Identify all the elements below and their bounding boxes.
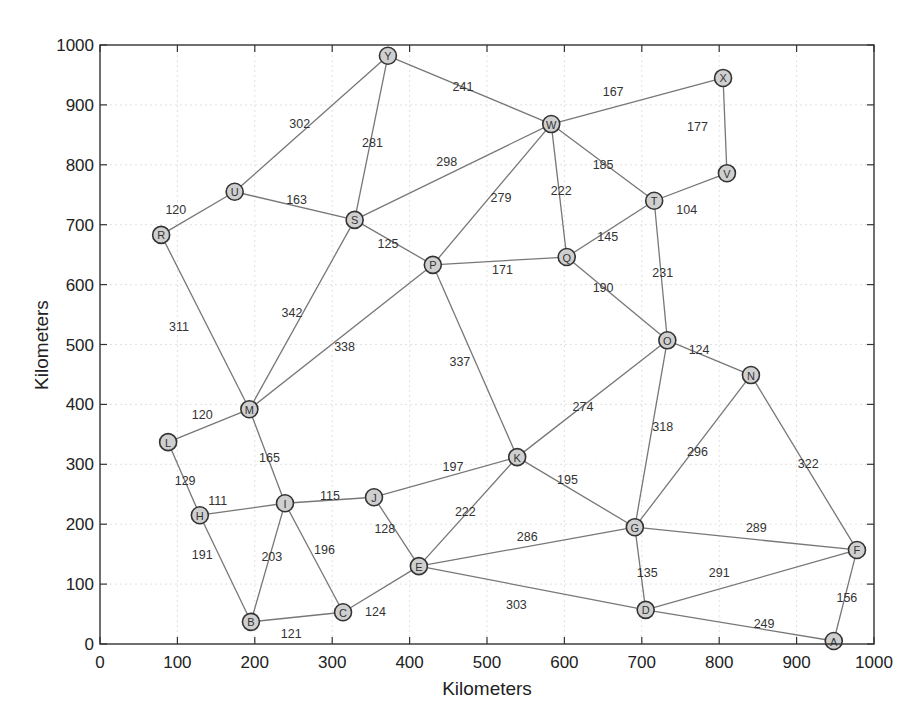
edge-weight-G-D: 135 xyxy=(637,566,658,580)
edge-weight-P-M: 338 xyxy=(334,340,355,354)
node-label: S xyxy=(351,214,358,226)
edge-weight-F-A: 156 xyxy=(836,591,857,605)
network-figure: 3022812411671772982792221851041452311201… xyxy=(0,0,921,728)
x-tick-label: 1000 xyxy=(855,653,893,672)
node-label: L xyxy=(165,437,171,449)
node-P: P xyxy=(424,256,441,273)
edge-X-V xyxy=(723,78,727,173)
edge-weight-M-I: 165 xyxy=(259,451,280,465)
node-B: B xyxy=(242,613,259,630)
x-tick-label: 900 xyxy=(782,653,810,672)
node-R: R xyxy=(153,226,170,243)
node-G: G xyxy=(626,519,643,536)
edge-weight-L-H: 129 xyxy=(175,474,196,488)
edge-P-K xyxy=(433,265,517,457)
node-A: A xyxy=(825,633,842,650)
node-E: E xyxy=(410,558,427,575)
edge-weight-H-I: 111 xyxy=(208,494,227,508)
edge-weight-Y-S: 281 xyxy=(362,136,383,150)
y-tick-label: 900 xyxy=(66,96,94,115)
node-H: H xyxy=(191,507,208,524)
edge-K-G xyxy=(517,457,635,527)
edge-weight-S-M: 342 xyxy=(282,306,303,320)
edge-weight-R-M: 311 xyxy=(169,320,189,334)
edge-weight-T-Q: 145 xyxy=(597,230,618,244)
edge-weight-D-F: 291 xyxy=(709,566,730,580)
node-label: B xyxy=(247,616,254,628)
node-label: G xyxy=(631,522,640,534)
y-tick-label: 200 xyxy=(66,515,94,534)
x-tick-label: 800 xyxy=(705,653,733,672)
node-label: R xyxy=(157,229,165,241)
node-label: M xyxy=(245,404,254,416)
edge-weight-K-E: 222 xyxy=(455,505,476,519)
edge-weight-labels: 3022812411671772982792221851041452311201… xyxy=(165,80,857,641)
node-O: O xyxy=(659,332,676,349)
y-tick-label: 500 xyxy=(66,336,94,355)
graph-plot: 3022812411671772982792221851041452311201… xyxy=(0,0,921,728)
node-X: X xyxy=(715,69,732,86)
y-tick-label: 1000 xyxy=(56,36,94,55)
edge-weight-Y-W: 241 xyxy=(453,80,474,94)
y-tick-label: 700 xyxy=(66,216,94,235)
node-label: E xyxy=(415,561,422,573)
edge-weight-K-G: 195 xyxy=(557,473,578,487)
edge-W-X xyxy=(551,78,723,124)
edge-weight-P-Q: 171 xyxy=(492,263,513,277)
node-label: Q xyxy=(562,252,571,264)
edge-weight-E-D: 303 xyxy=(506,598,527,612)
y-tick-label: 800 xyxy=(66,156,94,175)
edge-O-K xyxy=(517,340,667,457)
edge-T-V xyxy=(654,173,727,201)
node-L: L xyxy=(160,434,177,451)
edge-weight-T-V: 104 xyxy=(676,203,697,217)
edge-E-D xyxy=(419,566,646,610)
edge-weight-Q-O: 190 xyxy=(593,281,614,295)
node-label: J xyxy=(371,492,377,504)
y-axis-title: Kilometers xyxy=(31,300,52,390)
edge-weight-I-C: 196 xyxy=(314,543,335,557)
node-V: V xyxy=(718,165,735,182)
edge-weight-I-B: 203 xyxy=(261,550,282,564)
node-label: V xyxy=(723,168,731,180)
edge-weight-W-S: 298 xyxy=(436,155,457,169)
node-label: K xyxy=(514,452,522,464)
node-label: F xyxy=(854,544,861,556)
y-tick-label: 400 xyxy=(66,395,94,414)
node-Y: Y xyxy=(379,47,396,64)
node-F: F xyxy=(848,541,865,558)
edge-weight-M-L: 120 xyxy=(192,408,213,422)
node-I: I xyxy=(276,495,293,512)
node-T: T xyxy=(646,192,663,209)
node-label: P xyxy=(429,259,436,271)
node-U: U xyxy=(226,183,243,200)
x-tick-label: 300 xyxy=(318,653,346,672)
edge-weight-B-C: 121 xyxy=(281,627,302,641)
edge-weight-W-T: 185 xyxy=(593,158,614,172)
node-Q: Q xyxy=(558,249,575,266)
edge-weight-D-A: 249 xyxy=(754,617,775,631)
y-tick-label: 0 xyxy=(85,635,94,654)
edge-weight-O-N: 124 xyxy=(689,343,710,357)
edge-weight-E-G: 286 xyxy=(517,530,538,544)
edge-D-A xyxy=(646,610,834,641)
node-label: C xyxy=(339,607,347,619)
node-label: T xyxy=(651,195,658,207)
nodes: ABCDEFGHIJKLMNOPQRSTUVWXY xyxy=(153,47,866,649)
node-label: U xyxy=(231,186,239,198)
node-label: X xyxy=(719,72,727,84)
edge-weight-W-Q: 222 xyxy=(551,184,572,198)
edge-weight-J-E: 128 xyxy=(374,522,395,536)
x-tick-label: 400 xyxy=(395,653,423,672)
node-label: D xyxy=(642,604,650,616)
node-C: C xyxy=(335,604,352,621)
edge-weight-T-O: 231 xyxy=(652,266,673,280)
edge-weight-W-P: 279 xyxy=(491,191,512,205)
edge-D-F xyxy=(646,550,857,610)
x-tick-label: 0 xyxy=(95,653,104,672)
x-axis-title: Kilometers xyxy=(442,678,532,699)
edge-weight-O-G: 318 xyxy=(652,420,673,434)
x-tick-label: 200 xyxy=(241,653,269,672)
x-tick-label: 700 xyxy=(628,653,656,672)
node-K: K xyxy=(509,449,526,466)
